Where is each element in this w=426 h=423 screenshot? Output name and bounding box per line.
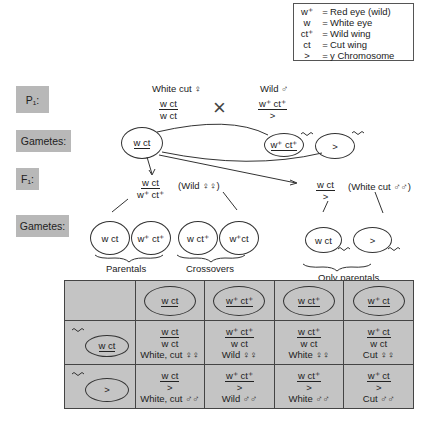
punnett-col-header: w⁺ ct — [344, 281, 414, 321]
punnett-square: w ct w⁺ ct⁺ w ct⁺ w⁺ ct w ct w ctw ctWhi… — [64, 280, 414, 409]
genotype-numerator: w ct⁺ — [297, 326, 321, 338]
punnett-col-header: w ct⁺ — [274, 281, 344, 321]
gamete-oval: w ct⁺ — [283, 286, 335, 316]
gamete-genotype: w⁺ ct⁺ — [271, 139, 298, 151]
punnett-row: w ct w ctw ctWhite, cut ♀♀ w⁺ ct⁺w ctWil… — [65, 321, 414, 365]
genotype-numerator: w⁺ ct⁺ — [258, 98, 287, 110]
parentals-label: Parentals — [106, 263, 146, 274]
phenotype: White ♂♂ — [288, 393, 329, 404]
genotype-denominator: w ct — [161, 338, 178, 349]
gamete-genotype: w ct — [134, 137, 151, 149]
pointer-line — [112, 199, 128, 212]
punnett-cell: w ct>White, cut ♂♂ — [135, 365, 205, 409]
gamete-genotype: w ct — [161, 295, 178, 307]
gamete-genotype: w⁺ ct⁺ — [138, 233, 165, 244]
phenotype: Wild ♀♀ — [222, 349, 257, 360]
gamete-female-p1: w ct — [121, 127, 163, 159]
gamete-genotype: w⁺ ct — [368, 295, 390, 307]
genotype-numerator: w ct — [160, 370, 179, 382]
gamete-male-f1: w ct — [305, 227, 342, 253]
gamete-genotype: w ct — [99, 340, 116, 352]
p1-male-genotype: w⁺ ct⁺ > — [258, 98, 287, 121]
genotype-numerator: w⁺ ct — [367, 370, 391, 382]
wavy-tail — [338, 248, 350, 251]
gamete-female-f1: w ct⁺ — [178, 221, 218, 255]
genotype-denominator: > — [237, 382, 243, 393]
genotype-denominator: > — [167, 382, 173, 393]
phenotype: White, cut ♀♀ — [140, 349, 199, 360]
phenotype: Wild ♂♂ — [222, 393, 257, 404]
gamete-male-y-p1: > — [315, 133, 355, 159]
pointer-line — [375, 192, 383, 213]
genotype-denominator: w⁺ ct⁺ — [137, 189, 164, 200]
punnett-corner — [65, 281, 136, 321]
punnett-cell: w⁺ ctw ctCut ♀♀ — [344, 321, 414, 365]
gamete-genotype: w ct⁺ — [298, 295, 320, 307]
gamete-genotype: w ct — [102, 233, 119, 244]
pointer-line — [223, 192, 237, 210]
genotype-denominator: > — [270, 110, 276, 121]
punnett-cell: w ct⁺w ctWhite ♀♀ — [274, 321, 344, 365]
gamete-male-x-p1: w⁺ ct⁺ — [264, 133, 304, 157]
punnett-row: > w ct>White, cut ♂♂ w⁺ ct⁺>Wild ♂♂ w ct… — [65, 365, 414, 409]
cross-symbol: × — [213, 95, 226, 121]
gamete-female-f1: w⁺ct — [219, 221, 259, 255]
gamete-oval: > — [85, 378, 129, 402]
punnett-col-header: w ct — [135, 281, 205, 321]
genotype-denominator: > — [306, 382, 312, 393]
f1-female-genotype: w ct w⁺ ct⁺ — [137, 177, 164, 200]
phenotype: White ♀♀ — [288, 349, 329, 360]
arrowhead — [149, 169, 155, 175]
genotype-numerator: w⁺ ct⁺ — [225, 370, 254, 382]
punnett-cell: w ct⁺>White ♂♂ — [274, 365, 344, 409]
gamete-genotype: w ct — [315, 235, 332, 246]
wavy-tail — [301, 133, 313, 136]
punnett-row-header: w ct — [65, 321, 136, 365]
punnett-cell: w⁺ ct⁺w ctWild ♀♀ — [205, 321, 275, 365]
genotype-numerator: w⁺ ct⁺ — [225, 326, 254, 338]
gamete-female-f1: w⁺ ct⁺ — [131, 221, 171, 255]
genotype-numerator: w ct — [160, 326, 179, 338]
brace-only-parentals — [303, 264, 371, 271]
crossovers-label: Crossovers — [186, 263, 234, 274]
f1-male-phenotype: (White cut ♂♂) — [348, 181, 411, 192]
genotype-denominator: w ct — [301, 338, 318, 349]
f1-female-phenotype: (Wild ♀♀) — [178, 180, 220, 191]
p1-female-genotype: w ct w ct — [159, 98, 178, 121]
punnett-cell: w⁺ ct>Cut ♂♂ — [344, 365, 414, 409]
gamete-genotype: > — [104, 384, 110, 395]
gamete-female-f1: w ct — [90, 221, 130, 255]
phenotype: White, cut ♂♂ — [140, 393, 199, 404]
genotype-numerator: w⁺ ct — [367, 326, 391, 338]
punnett-row-header: > — [65, 365, 136, 409]
gamete-oval: w⁺ ct⁺ — [213, 286, 265, 316]
punnett-cell: w ctw ctWhite, cut ♀♀ — [135, 321, 205, 365]
genotype-denominator: > — [323, 191, 329, 202]
genotype-numerator: w ct — [141, 177, 160, 189]
genotype-denominator: w ct — [160, 110, 177, 121]
p1-female-label: White cut ♀ — [152, 83, 201, 94]
p1-male-label: Wild ♂ — [260, 83, 288, 94]
wavy-tail — [352, 132, 364, 135]
gamete-oval: w ct — [85, 335, 129, 357]
punnett-header-row: w ct w⁺ ct⁺ w ct⁺ w⁺ ct — [65, 281, 414, 321]
arrow-line — [159, 155, 296, 183]
genotype-numerator: w ct — [159, 98, 178, 110]
genotype-numerator: w ct — [316, 179, 335, 191]
pointer-line — [323, 201, 328, 212]
gamete-genotype: > — [332, 141, 338, 152]
genotype-denominator: w ct — [231, 338, 248, 349]
punnett-col-header: w⁺ ct⁺ — [205, 281, 275, 321]
gamete-genotype: > — [370, 235, 376, 246]
gamete-oval: w ct — [144, 286, 196, 316]
f1-male-genotype: w ct > — [316, 179, 335, 202]
phenotype: Cut ♂♂ — [363, 393, 395, 404]
punnett-cell: w⁺ ct⁺>Wild ♂♂ — [205, 365, 275, 409]
brace-parentals — [95, 255, 163, 262]
brace-crossovers — [177, 255, 245, 262]
gamete-genotype: w⁺ct — [229, 233, 248, 244]
gamete-oval: w⁺ ct — [353, 286, 405, 316]
phenotype: Cut ♀♀ — [363, 349, 395, 360]
gamete-male-f1: > — [353, 227, 392, 253]
mating-line — [157, 124, 268, 135]
